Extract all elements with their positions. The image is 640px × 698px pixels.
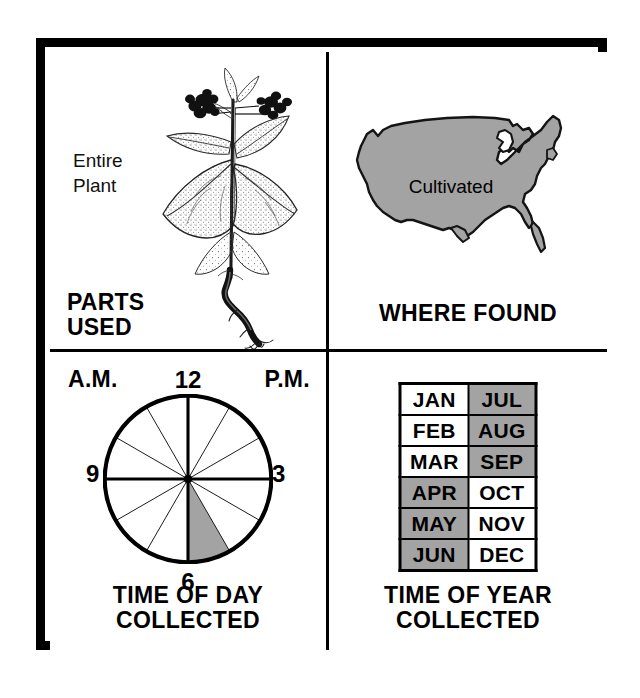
time-of-day-caption-line1: TIME OF DAY: [50, 583, 326, 609]
entire-plant-label-line1: Entire: [73, 148, 123, 173]
month-cell-jun: JUN: [400, 539, 468, 571]
months-grid-row: FEBAUG: [400, 415, 536, 446]
month-cell-aug: AUG: [468, 415, 536, 446]
quadrant-grid: Entire Plant PARTS USED: [50, 52, 607, 650]
months-grid-body: JANJULFEBAUGMARSEPAPROCTMAYNOVJUNDEC: [400, 384, 536, 571]
clock-hour-12: 12: [175, 366, 202, 394]
parts-used-caption-line1: PARTS: [67, 290, 144, 316]
time-of-year-caption-line1: TIME OF YEAR: [329, 583, 607, 609]
month-cell-sep: SEP: [468, 446, 536, 477]
months-grid-row: MAYNOV: [400, 508, 536, 539]
panel-parts-used: Entire Plant PARTS USED: [50, 52, 329, 352]
entire-plant-label: Entire Plant: [73, 148, 123, 199]
panel-time-of-day: A.M. P.M. 12 3 9 6: [50, 352, 329, 650]
month-cell-apr: APR: [400, 477, 468, 508]
time-of-day-caption-line2: COLLECTED: [50, 608, 326, 634]
months-grid-row: MARSEP: [400, 446, 536, 477]
clock-dial: [103, 394, 273, 564]
month-cell-mar: MAR: [400, 446, 468, 477]
time-of-day-caption: TIME OF DAY COLLECTED: [50, 583, 326, 635]
clock-am-label: A.M.: [68, 366, 118, 393]
panel-where-found: Cultivated WHERE FOUND: [329, 52, 607, 352]
month-cell-feb: FEB: [400, 415, 468, 446]
clock-hour-9: 9: [86, 460, 99, 488]
infographic-frame: Entire Plant PARTS USED: [36, 38, 607, 650]
where-found-caption: WHERE FOUND: [329, 301, 607, 327]
clock-area: A.M. P.M. 12 3 9 6: [50, 352, 326, 582]
entire-plant-label-line2: Plant: [73, 173, 123, 198]
clock-hour-3: 3: [272, 460, 285, 488]
months-grid-row: JANJUL: [400, 384, 536, 416]
clock-pm-label: P.M.: [264, 366, 310, 393]
months-grid-row: APROCT: [400, 477, 536, 508]
map-coverage-label: Cultivated: [329, 176, 607, 198]
months-grid-row: JUNDEC: [400, 539, 536, 571]
plant-illustration: [145, 64, 325, 349]
panel-time-of-year: JANJULFEBAUGMARSEPAPROCTMAYNOVJUNDEC TIM…: [329, 352, 607, 650]
parts-used-caption-line2: USED: [67, 315, 144, 341]
parts-used-caption: PARTS USED: [67, 290, 144, 342]
month-cell-oct: OCT: [468, 477, 536, 508]
month-cell-nov: NOV: [468, 508, 536, 539]
month-cell-jan: JAN: [400, 384, 468, 416]
month-cell-jul: JUL: [468, 384, 536, 416]
time-of-year-caption: TIME OF YEAR COLLECTED: [329, 583, 607, 635]
months-grid: JANJULFEBAUGMARSEPAPROCTMAYNOVJUNDEC: [399, 382, 538, 572]
month-cell-may: MAY: [400, 508, 468, 539]
month-cell-dec: DEC: [468, 539, 536, 571]
time-of-year-caption-line2: COLLECTED: [329, 608, 607, 634]
